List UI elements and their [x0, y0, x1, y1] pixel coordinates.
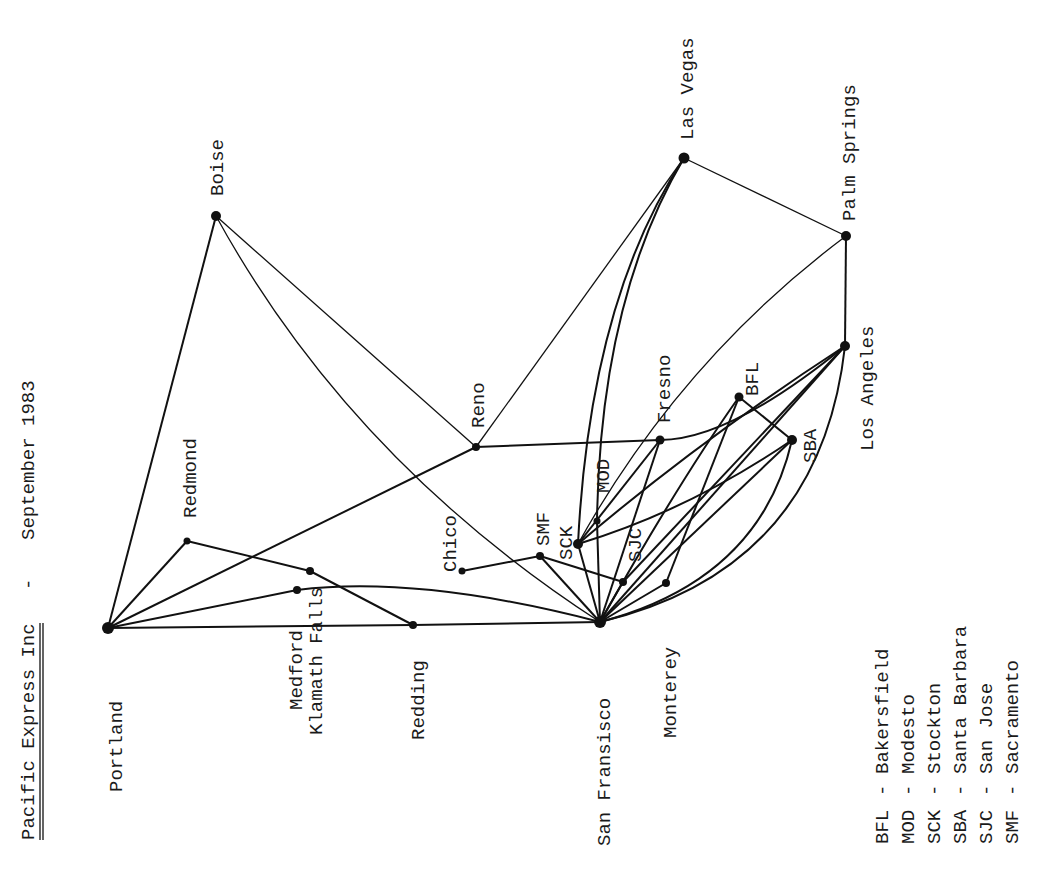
legend-code: MOD — [898, 810, 920, 844]
company-name: Pacific Express Inc — [18, 623, 40, 840]
node-los-angeles[interactable] — [840, 341, 850, 351]
node-las-vegas[interactable] — [679, 153, 690, 164]
route-portland-reno — [108, 447, 476, 628]
legend-dash: - — [898, 785, 920, 796]
legend-name: San Jose — [976, 683, 998, 774]
legend-code: BFL — [872, 810, 894, 844]
route-palmsprings-la — [845, 236, 846, 346]
node-palm-springs[interactable] — [841, 231, 851, 241]
route-portland-redding — [108, 625, 413, 628]
label-portland: Portland — [106, 701, 128, 792]
node-san-francisco[interactable] — [594, 616, 606, 628]
label-las-vegas: Las Vegas — [677, 37, 699, 140]
legend-code: SCK — [924, 809, 946, 844]
legend-item: SJC - San Jose — [976, 683, 998, 844]
label-los-angeles: Los Angeles — [857, 326, 879, 451]
label-redding: Redding — [408, 660, 430, 740]
legend-name: Modesto — [898, 694, 920, 774]
label-klamath-falls: Klamath Falls — [306, 587, 328, 735]
route-lasvegas-palmsprings — [684, 158, 846, 236]
label-reno: Reno — [468, 382, 490, 428]
label-bfl: BFL — [742, 362, 764, 396]
label-smf: SMF — [533, 512, 555, 546]
legend-item: SCK - Stockton — [924, 683, 946, 844]
route-reno-lasvegas — [476, 158, 684, 447]
legend-dash: - — [1002, 785, 1024, 796]
city-labels: Portland Boise Redmond Klamath Falls Med… — [106, 37, 879, 846]
title-separator: - — [18, 579, 40, 590]
node-monterey[interactable] — [662, 579, 670, 587]
legend-name: Santa Barbara — [950, 626, 972, 774]
node-medford[interactable] — [293, 586, 301, 594]
route-sck-fresno — [578, 440, 660, 544]
node-reno[interactable] — [472, 443, 480, 451]
legend-name: Bakersfield — [872, 649, 894, 774]
label-palm-springs: Palm Springs — [839, 84, 861, 221]
node-smf[interactable] — [536, 552, 544, 560]
legend-item: BFL - Bakersfield — [872, 649, 894, 844]
legend-code: SJC — [976, 810, 998, 844]
route-boise-reno — [216, 216, 476, 447]
legend-name: Stockton — [924, 683, 946, 774]
legend: BFL - Bakersfield MOD - Modesto SCK - St… — [872, 626, 1024, 844]
legend-item: SBA - Santa Barbara — [950, 626, 972, 844]
legend-dash: - — [872, 785, 894, 796]
node-redding[interactable] — [409, 621, 417, 629]
legend-code: SBA — [950, 809, 972, 844]
map-date: September 1983 — [18, 380, 40, 540]
route-sfo-la — [600, 346, 845, 622]
legend-dash: - — [976, 785, 998, 796]
map-title: Pacific Express Inc - September 1983 — [18, 380, 43, 840]
label-redmond: Redmond — [180, 438, 202, 518]
legend-name: Sacramento — [1002, 660, 1024, 774]
node-portland[interactable] — [102, 622, 114, 634]
node-sjc[interactable] — [619, 578, 627, 586]
label-fresno: Fresno — [654, 355, 676, 423]
route-reno-fresno — [476, 440, 660, 447]
legend-item: MOD - Modesto — [898, 694, 920, 844]
node-sba[interactable] — [787, 435, 797, 445]
label-boise: Boise — [207, 139, 229, 196]
label-monterey: Monterey — [660, 647, 682, 738]
label-sck: SCK — [556, 525, 578, 560]
label-sjc: SJC — [625, 528, 647, 562]
label-mod: MOD — [593, 459, 615, 493]
legend-dash: - — [950, 785, 972, 796]
legend-dash: - — [924, 785, 946, 796]
node-fresno[interactable] — [656, 436, 665, 445]
node-boise[interactable] — [211, 211, 221, 221]
legend-code: SMF — [1002, 810, 1024, 844]
route-map: Pacific Express Inc - September 1983 — [0, 0, 1059, 876]
label-sba: SBA — [800, 428, 822, 463]
legend-item: SMF - Sacramento — [1002, 660, 1024, 844]
node-klamath-falls[interactable] — [306, 567, 314, 575]
route-redmond-klamath — [187, 541, 310, 571]
route-chico-smf — [462, 556, 540, 571]
label-san-francisco: San Fransisco — [594, 698, 616, 846]
node-redmond[interactable] — [184, 538, 191, 545]
node-mod[interactable] — [594, 518, 601, 525]
route-portland-boise — [108, 216, 216, 628]
label-chico: Chico — [440, 515, 462, 572]
route-redding-sfo — [413, 622, 600, 625]
label-medford: Medford — [286, 630, 308, 710]
